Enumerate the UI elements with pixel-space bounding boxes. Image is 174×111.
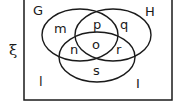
region-r: r bbox=[116, 42, 122, 57]
set-i-label: I bbox=[136, 76, 140, 91]
set-h-ellipse bbox=[75, 9, 151, 61]
region-p: p bbox=[93, 17, 101, 32]
set-h-label: H bbox=[145, 4, 155, 19]
region-o: o bbox=[92, 37, 100, 52]
region-q: q bbox=[120, 17, 128, 32]
region-l: l bbox=[39, 74, 43, 89]
region-m: m bbox=[54, 21, 67, 36]
venn-diagram: ξ G H I m p q n o r s l bbox=[0, 0, 174, 111]
region-n: n bbox=[70, 42, 78, 57]
universal-symbol: ξ bbox=[9, 41, 17, 59]
set-g-label: G bbox=[33, 3, 43, 18]
region-s: s bbox=[93, 63, 100, 78]
